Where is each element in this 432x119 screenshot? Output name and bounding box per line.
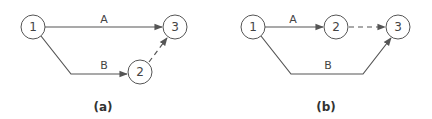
- activity-network-diagrams: A B 1 2 3 (a) A B 1: [0, 0, 432, 119]
- edge-label-A: A: [289, 13, 297, 26]
- svg-text:1: 1: [249, 20, 257, 34]
- caption-a: (a): [93, 100, 112, 114]
- edge-a-dummy: [149, 38, 167, 62]
- edge-label-A: A: [100, 13, 108, 26]
- svg-text:3: 3: [394, 20, 402, 34]
- edge-label-B: B: [100, 59, 108, 72]
- svg-text:3: 3: [171, 20, 179, 34]
- node-1: 1: [21, 15, 45, 39]
- diagram-a: A B 1 2 3 (a): [21, 13, 187, 114]
- svg-text:2: 2: [136, 65, 144, 79]
- node-2: 2: [128, 60, 152, 84]
- svg-text:1: 1: [29, 20, 37, 34]
- node-3: 3: [386, 15, 410, 39]
- node-1: 1: [241, 15, 265, 39]
- diagram-b: A B 1 2 3 (b): [241, 13, 410, 114]
- caption-b: (b): [316, 100, 336, 114]
- edge-a-activity-B: [41, 36, 127, 74]
- node-3: 3: [163, 15, 187, 39]
- node-2: 2: [324, 15, 348, 39]
- edge-label-B: B: [324, 59, 332, 72]
- svg-text:2: 2: [332, 20, 340, 34]
